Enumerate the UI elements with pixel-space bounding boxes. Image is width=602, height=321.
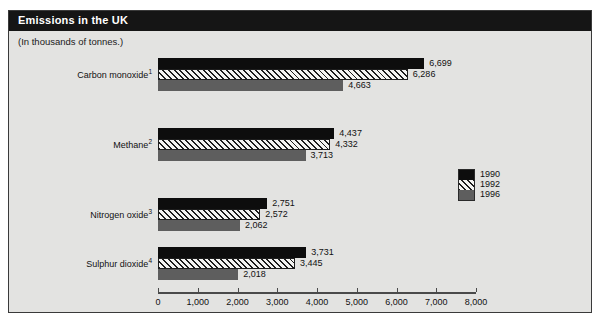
category-label-4: Sulphur dioxide4 [12, 260, 152, 269]
bar-nitrogenoxide-1990 [158, 198, 267, 209]
category-label-3: Nitrogen oxide3 [12, 211, 152, 220]
chart-panel: Emissions in the UK (In thousands of ton… [8, 10, 592, 313]
x-axis-tick-label: 4,000 [306, 297, 329, 307]
bar-value-label: 2,751 [272, 198, 295, 209]
legend-swatch-1992 [459, 180, 474, 190]
x-axis-tick [317, 288, 318, 292]
bar-nitrogenoxide-1992 [158, 209, 260, 220]
x-axis-tick-label: 7,000 [425, 297, 448, 307]
x-axis-line [158, 292, 476, 294]
bar-value-label: 2,572 [265, 209, 288, 220]
bar-value-label: 4,663 [348, 80, 371, 91]
x-axis-tick [476, 288, 477, 292]
bar-sulphurdioxide-1992 [158, 258, 295, 269]
x-axis-tick [397, 288, 398, 292]
x-axis-tick-label: 3,000 [266, 297, 289, 307]
bar-carbonmonoxide-1992 [158, 69, 408, 80]
category-label-text: Sulphur dioxide [86, 259, 148, 269]
category-label-2: Methane2 [12, 141, 152, 150]
legend-swatch-stack [458, 169, 475, 201]
x-axis-tick-label: 2,000 [226, 297, 249, 307]
legend-label-1990: 1990 [480, 169, 500, 179]
x-axis-tick [198, 288, 199, 292]
bar-value-label: 2,062 [245, 220, 268, 231]
bar-value-label: 3,445 [300, 258, 323, 269]
category-footnote-marker: 2 [148, 138, 152, 145]
legend-label-1996: 1996 [480, 189, 500, 199]
bar-methane-1996 [158, 150, 306, 161]
category-footnote-marker: 4 [148, 257, 152, 264]
legend-swatch-1996 [459, 190, 474, 200]
category-label-text: Methane [113, 140, 148, 150]
x-axis-tick-label: 8,000 [465, 297, 488, 307]
category-label-text: Nitrogen oxide [90, 210, 148, 220]
x-axis-tick [436, 288, 437, 292]
bar-carbonmonoxide-1996 [158, 80, 343, 91]
x-axis-tick-label: 0 [155, 297, 160, 307]
x-axis-tick-label: 6,000 [385, 297, 408, 307]
bar-value-label: 6,699 [429, 58, 452, 69]
bar-value-label: 6,286 [413, 69, 436, 80]
bar-nitrogenoxide-1996 [158, 220, 240, 231]
legend-swatch-1990 [459, 170, 474, 180]
bar-methane-1992 [158, 139, 330, 150]
bar-value-label: 3,731 [311, 247, 334, 258]
x-axis-tick [357, 288, 358, 292]
plot-area: Carbon monoxide16,6996,2864,663Methane24… [9, 11, 593, 314]
category-footnote-marker: 3 [148, 208, 152, 215]
bar-carbonmonoxide-1990 [158, 58, 424, 69]
bar-value-label: 3,713 [311, 150, 334, 161]
bar-sulphurdioxide-1996 [158, 269, 238, 280]
legend-label-1992: 1992 [480, 179, 500, 189]
category-label-text: Carbon monoxide [77, 70, 148, 80]
bar-value-label: 2,018 [243, 269, 266, 280]
x-axis-tick [277, 288, 278, 292]
x-axis-tick-label: 5,000 [345, 297, 368, 307]
category-label-1: Carbon monoxide1 [12, 71, 152, 80]
bar-value-label: 4,332 [335, 139, 358, 150]
x-axis-tick [158, 288, 159, 292]
bar-sulphurdioxide-1990 [158, 247, 306, 258]
x-axis-tick-label: 1,000 [186, 297, 209, 307]
bar-value-label: 4,437 [339, 128, 362, 139]
x-axis-tick [238, 288, 239, 292]
bar-methane-1990 [158, 128, 334, 139]
category-footnote-marker: 1 [148, 68, 152, 75]
